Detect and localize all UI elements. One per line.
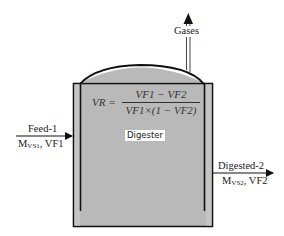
feed-fraction-label: , VF1 — [40, 138, 64, 149]
gas-arrow-icon — [184, 13, 194, 24]
digester-label: Digester — [125, 130, 165, 141]
feed-mass-symbol: M — [18, 138, 27, 149]
gas-pipe — [184, 13, 194, 72]
equation-fraction: VF1 − VF2 VF1×(1 − VF2) — [122, 88, 200, 117]
diagram-canvas — [0, 0, 284, 236]
digested-fraction-label: , VF2 — [244, 175, 268, 186]
digested-name-label: Digested-2 — [218, 161, 264, 172]
digested-mass-subscript: VS2 — [231, 179, 243, 187]
feed-name-label: Feed-1 — [28, 124, 57, 135]
fraction-bar — [122, 102, 200, 103]
digester-diagram: Gases VR = VF1 − VF2 VF1×(1 − VF2) Diges… — [0, 0, 284, 236]
feed-mass-subscript: VS1 — [27, 142, 39, 150]
equation-lhs: VR = — [92, 96, 116, 108]
volatile-reduction-equation: VR = VF1 − VF2 VF1×(1 − VF2) — [92, 88, 202, 116]
digested-mass-symbol: M — [222, 175, 231, 186]
digested-properties-label: MVS2, VF2 — [222, 176, 268, 187]
equation-denominator: VF1×(1 − VF2) — [122, 104, 200, 117]
gas-outlet-label: Gases — [173, 26, 200, 37]
feed-properties-label: MVS1, VF1 — [18, 139, 64, 150]
equation-numerator: VF1 − VF2 — [122, 88, 200, 101]
